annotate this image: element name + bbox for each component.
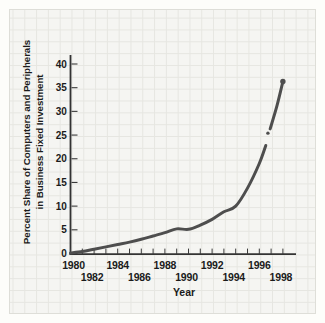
x-tick-label: 1982 <box>81 271 104 283</box>
y-tick-label: 35 <box>56 82 67 93</box>
x-tick-label: 1984 <box>106 259 129 271</box>
gap-dot-marker <box>266 131 269 134</box>
y-tick-label: 30 <box>56 106 67 117</box>
y-tick-label: 5 <box>61 224 67 235</box>
x-tick-label: 1996 <box>248 259 271 271</box>
y-tick-label: 25 <box>56 130 67 141</box>
x-axis-title: Year <box>173 286 195 298</box>
x-tick-label: 1990 <box>175 271 198 283</box>
y-tick-label: 0 <box>61 248 67 259</box>
x-tick-label: 1980 <box>62 259 85 271</box>
y-axis-title-line2: in Business Fixed Investment <box>34 74 45 210</box>
x-tick-label: 1994 <box>222 271 245 283</box>
line-chart: 0510152025303540198019841988199219961982… <box>0 0 325 323</box>
x-tick-label: 1986 <box>128 271 151 283</box>
data-line-segment <box>71 145 266 253</box>
y-tick-label: 40 <box>56 59 67 70</box>
data-line-segment <box>270 82 283 129</box>
endpoint-marker <box>280 79 285 84</box>
x-tick-label: 1988 <box>154 259 177 271</box>
y-tick-label: 15 <box>56 177 67 188</box>
y-axis-title-line1: Percent Share of Computers and Periphera… <box>21 39 32 244</box>
x-tick-label: 1992 <box>201 259 224 271</box>
x-tick-label: 1998 <box>270 271 293 283</box>
y-tick-label: 10 <box>56 201 67 212</box>
y-tick-label: 20 <box>56 153 67 164</box>
